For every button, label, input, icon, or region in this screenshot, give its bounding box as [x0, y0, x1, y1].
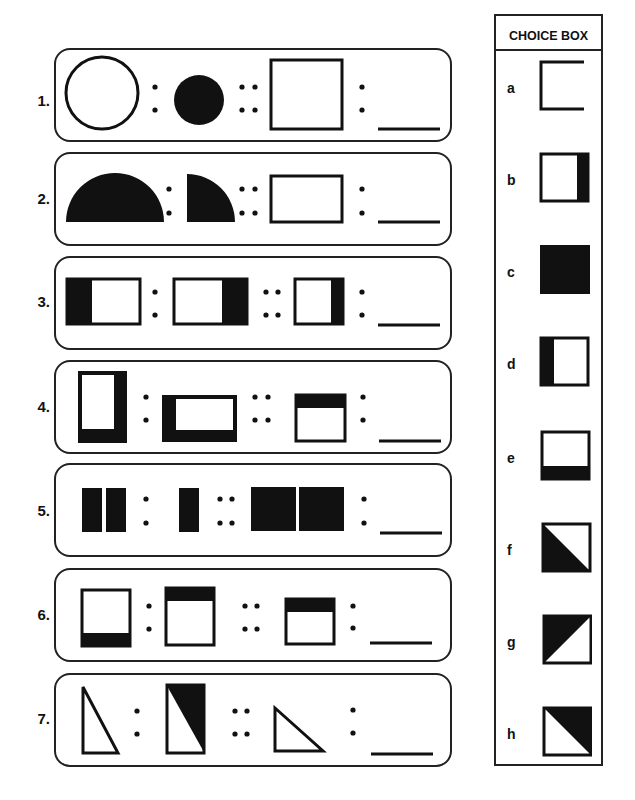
- filled-circle-shape: [174, 75, 224, 125]
- question-row-5: [54, 463, 452, 557]
- black-bar-shape: [179, 488, 199, 532]
- question-2-figures: [56, 154, 454, 248]
- square-top-black-shape: [165, 587, 215, 601]
- choice-option-b[interactable]: b: [496, 152, 601, 212]
- square-bottom-black-shape: [81, 633, 131, 647]
- square-top-black-shape: [295, 394, 346, 408]
- filled-quarter-circle-shape: [187, 174, 235, 222]
- question-row-4: [54, 360, 452, 454]
- small-square-top-black-shape: [285, 598, 335, 612]
- black-square-shape: [251, 487, 296, 531]
- question-number-4: 4.: [0, 398, 50, 415]
- question-number-6: 6.: [0, 606, 50, 623]
- outline-right-triangle-short-shape: [275, 708, 323, 751]
- question-row-2: [54, 152, 452, 246]
- question-3-figures: [56, 258, 454, 352]
- choice-option-h[interactable]: h: [496, 706, 601, 766]
- tall-rect-right-black-shape: [331, 278, 344, 325]
- choice-option-e[interactable]: e: [496, 430, 601, 490]
- black-bar-shape: [106, 488, 126, 532]
- choice-option-a[interactable]: a: [496, 60, 601, 120]
- question-number-1: 1.: [0, 92, 50, 109]
- question-4-figures: [56, 362, 454, 456]
- question-row-7: [54, 673, 452, 767]
- question-number-2: 2.: [0, 190, 50, 207]
- question-number-5: 5.: [0, 502, 50, 519]
- question-number-3: 3.: [0, 293, 50, 310]
- choice-option-c[interactable]: c: [496, 244, 601, 304]
- choice-option-f[interactable]: f: [496, 522, 601, 582]
- question-7-figures: [56, 675, 454, 769]
- question-row-1: [54, 48, 452, 142]
- black-bar-shape: [82, 488, 102, 532]
- outline-right-triangle-shape: [83, 687, 118, 753]
- question-6-figures: [56, 570, 454, 664]
- choice-box: CHOICE BOX a b c d e f g h: [494, 14, 603, 766]
- outline-rectangle-shape: [271, 176, 342, 222]
- question-1-figures: [56, 50, 454, 144]
- outline-square-shape: [541, 62, 584, 109]
- outline-square-shape: [271, 60, 342, 129]
- choice-box-title: CHOICE BOX: [496, 16, 601, 51]
- question-5-figures: [56, 465, 454, 559]
- question-number-7: 7.: [0, 710, 50, 727]
- choice-option-d[interactable]: d: [496, 336, 601, 396]
- rect-right-black-shape: [222, 278, 248, 325]
- solid-black-square-shape: [540, 245, 590, 294]
- square-left-black-shape: [540, 337, 554, 386]
- black-square-shape: [299, 487, 344, 531]
- question-row-6: [54, 568, 452, 662]
- square-bottom-black-shape: [541, 466, 590, 480]
- filled-semicircle-shape: [66, 173, 164, 222]
- square-right-black-shape: [577, 153, 589, 202]
- choice-option-g[interactable]: g: [496, 614, 601, 674]
- question-row-3: [54, 256, 452, 350]
- rect-left-black-shape: [66, 278, 92, 325]
- outline-circle-shape: [66, 57, 138, 129]
